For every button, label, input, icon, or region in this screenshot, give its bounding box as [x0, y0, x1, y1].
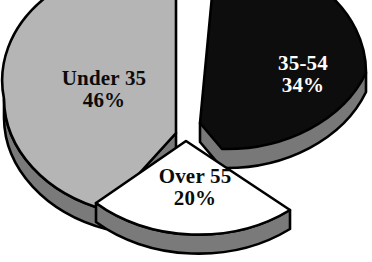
pie-chart: Under 35 46% 35-54 34% Over 55 20%: [0, 0, 372, 262]
pie-slice-35-54[interactable]: [200, 0, 366, 168]
pie-chart-canvas: [0, 0, 372, 262]
